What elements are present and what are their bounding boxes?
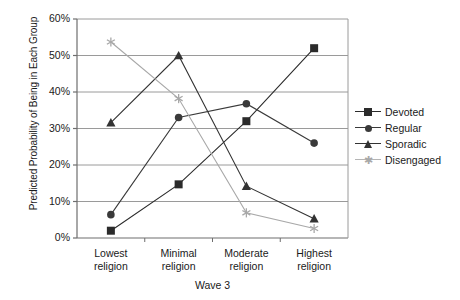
series-line [111,48,314,231]
series-line [111,56,314,219]
legend-item[interactable]: ✱ Disengaged [355,152,455,168]
legend-label-sporadic: Sporadic [381,138,426,150]
y-tick-label: 60% [49,12,70,24]
circle-marker-icon [175,114,183,122]
circle-marker-icon [107,211,115,219]
circle-marker-icon [310,139,318,147]
series-regular [107,100,318,219]
chart-figure: Predicted Probability of Being in Each G… [0,0,460,300]
square-marker-icon [107,227,115,235]
data-series-group [106,37,318,234]
legend-key-disengaged: ✱ [355,153,381,167]
circle-marker-icon [365,125,372,132]
asterisk-marker-icon: ✱ [363,153,373,167]
triangle-marker-icon [364,140,372,148]
y-tick-label: 40% [49,85,70,97]
circle-marker-icon [243,100,251,108]
legend-item[interactable]: Regular [355,120,455,136]
legend-label-regular: Regular [381,122,422,134]
x-category-label: Highestreligion [274,247,354,272]
series-sporadic [106,51,318,223]
legend-label-devoted: Devoted [381,106,424,118]
legend-item[interactable]: Sporadic [355,136,455,152]
square-marker-icon [175,180,183,188]
legend-key-devoted [355,105,381,119]
y-tick-label: 50% [49,49,70,61]
square-marker-icon [364,108,372,116]
chart-legend: Devoted Regular Sporadic ✱ Disengaged [355,104,455,168]
asterisk-marker-icon [175,94,183,103]
series-line [111,42,314,229]
legend-key-sporadic [355,137,381,151]
y-tick-label: 20% [49,158,70,170]
y-tick-label: 30% [49,122,70,134]
triangle-marker-icon [242,182,251,190]
y-axis-title: Predicted Probability of Being in Each G… [28,0,39,229]
square-marker-icon [310,44,318,52]
triangle-marker-icon [310,214,319,222]
y-tick-label: 10% [49,195,70,207]
series-devoted [107,44,318,235]
legend-key-regular [355,121,381,135]
legend-item[interactable]: Devoted [355,104,455,120]
x-axis-title: Wave 3 [153,279,273,291]
square-marker-icon [242,117,250,125]
asterisk-marker-icon [107,37,115,46]
y-tick-label: 0% [55,231,70,243]
asterisk-marker-icon [242,208,250,217]
legend-label-disengaged: Disengaged [381,154,441,166]
x-axis-ticks [145,238,281,242]
series-disengaged [107,37,318,233]
asterisk-marker-icon [310,224,318,233]
